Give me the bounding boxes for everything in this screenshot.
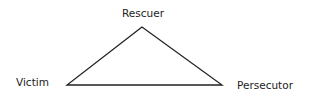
- node-label-persecutor: Persecutor: [237, 80, 293, 91]
- triangle-outline: [67, 27, 222, 85]
- node-label-rescuer: Rescuer: [122, 8, 164, 19]
- drama-triangle-diagram: Rescuer Victim Persecutor: [0, 0, 314, 95]
- node-label-victim: Victim: [16, 77, 49, 88]
